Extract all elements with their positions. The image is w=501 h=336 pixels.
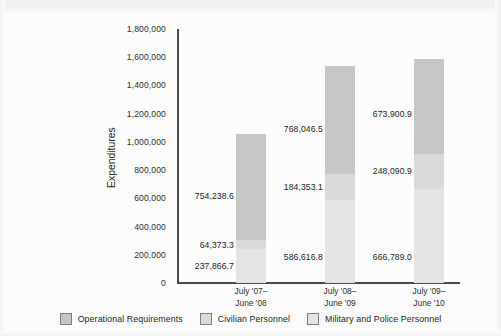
y-axis-tick-label: 1,400,000 — [127, 80, 166, 90]
bar-group[interactable] — [414, 29, 444, 283]
x-axis-category-line: July '07– — [208, 286, 294, 298]
x-axis-category-label: July '08–June '09 — [297, 286, 383, 309]
legend-swatch-icon — [200, 313, 212, 325]
bar-group[interactable] — [325, 29, 355, 283]
scan-top-band — [0, 0, 501, 14]
y-axis-tick-label: 1,800,000 — [127, 24, 166, 34]
chart-page: Expenditures 1,800,0001,600,0001,400,000… — [0, 0, 501, 336]
bar-segment[interactable] — [325, 174, 355, 200]
x-axis-category-label: July '09–June '10 — [386, 286, 472, 309]
bar-value-label: 64,373.3 — [160, 240, 234, 250]
scan-bottom-edge — [0, 330, 501, 336]
y-axis-tick-labels: 1,800,0001,600,0001,400,0001,200,0001,00… — [0, 29, 174, 283]
bar-value-label: 666,789.0 — [338, 252, 412, 262]
x-axis-category-line: June '09 — [297, 298, 383, 310]
bar-segment[interactable] — [325, 200, 355, 283]
x-axis-category-line: July '08– — [297, 286, 383, 298]
y-axis-tick-label: 400,000 — [134, 222, 166, 232]
bar-value-label: 586,616.8 — [249, 252, 323, 262]
bar-value-label: 248,090.9 — [338, 166, 412, 176]
y-axis-tick-label: 800,000 — [134, 165, 166, 175]
bar-segment[interactable] — [414, 189, 444, 283]
x-axis-category-label: July '07–June '08 — [208, 286, 294, 309]
bar-segment[interactable] — [236, 240, 266, 249]
legend-item[interactable]: Civilian Personnel — [200, 313, 290, 325]
bar-value-label: 184,353.1 — [249, 182, 323, 192]
legend-label: Civilian Personnel — [218, 314, 290, 324]
chart-legend: Operational RequirementsCivilian Personn… — [0, 313, 501, 325]
bar-value-label: 237,866.7 — [160, 261, 234, 271]
bar-segment[interactable] — [414, 154, 444, 189]
bar-segment[interactable] — [325, 66, 355, 174]
y-axis-tick-label: 200,000 — [134, 250, 166, 260]
legend-item[interactable]: Military and Police Personnel — [307, 313, 441, 325]
y-axis-tick-label: 0 — [161, 278, 166, 288]
y-axis-tick-label: 1,600,000 — [127, 52, 166, 62]
bar-value-label: 673,900.9 — [338, 109, 412, 119]
legend-label: Military and Police Personnel — [325, 314, 441, 324]
legend-item[interactable]: Operational Requirements — [60, 313, 183, 325]
x-axis-category-line: July '09– — [386, 286, 472, 298]
y-axis-tick-label: 1,200,000 — [127, 109, 166, 119]
scan-right-edge — [495, 0, 501, 336]
legend-swatch-icon — [307, 313, 319, 325]
bar-value-label: 754,238.6 — [160, 191, 234, 201]
bar-value-label: 768,046.5 — [249, 124, 323, 134]
x-axis-category-line: June '08 — [208, 298, 294, 310]
bar-segment[interactable] — [414, 59, 444, 154]
plot-area: 237,866.764,373.3754,238.6586,616.8184,3… — [177, 29, 460, 283]
legend-swatch-icon — [60, 313, 72, 325]
legend-label: Operational Requirements — [78, 314, 183, 324]
x-axis-category-line: June '10 — [386, 298, 472, 310]
y-axis-tick-label: 1,000,000 — [127, 137, 166, 147]
bar-group[interactable] — [236, 29, 266, 283]
